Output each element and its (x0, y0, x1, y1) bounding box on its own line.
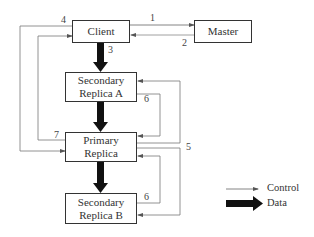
edge-label-1: 1 (150, 12, 155, 23)
data-arrow-primary-to-secondary-b (93, 162, 108, 193)
node-primary-line2: Replica (84, 147, 118, 160)
node-secondary-replica-a: Secondary Replica A (65, 72, 137, 102)
edge-label-2: 2 (182, 37, 187, 48)
edge-5-primary-to-secondary-a (137, 81, 180, 143)
node-primary-replica: Primary Replica (65, 132, 137, 162)
edge-label-5: 5 (186, 141, 191, 152)
edge-label-7: 7 (54, 129, 59, 140)
edge-label-6b: 6 (144, 191, 149, 202)
data-arrow-secondary-a-to-primary (93, 102, 108, 132)
legend-data-arrow (226, 196, 263, 211)
node-master: Master (194, 20, 252, 43)
node-master-label: Master (208, 25, 239, 38)
legend-data-label: Data (267, 197, 287, 208)
edge-label-6a: 6 (144, 93, 149, 104)
node-secondary-replica-b: Secondary Replica B (65, 193, 137, 224)
node-secondary-b-line1: Secondary (78, 196, 124, 209)
edge-5-primary-to-secondary-b (137, 148, 180, 215)
node-secondary-a-line2: Replica A (79, 87, 123, 100)
node-client: Client (72, 20, 130, 43)
node-primary-line1: Primary (83, 134, 118, 147)
node-client-label: Client (88, 25, 115, 38)
data-arrow-client-to-secondary-a (93, 43, 108, 72)
node-secondary-a-line1: Secondary (78, 74, 124, 87)
edge-label-3: 3 (108, 44, 113, 55)
legend-control-label: Control (267, 182, 299, 193)
edge-label-4: 4 (61, 14, 66, 25)
node-secondary-b-line2: Replica B (79, 209, 123, 222)
